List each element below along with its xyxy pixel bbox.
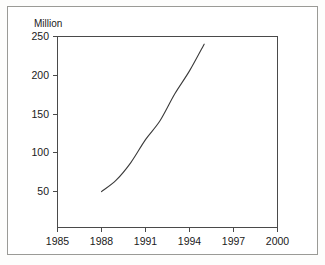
x-tick-label-1997: 1997 xyxy=(222,235,246,247)
x-tick-label-1988: 1988 xyxy=(90,235,114,247)
y-tick-label-150: 150 xyxy=(31,108,49,120)
y-tick-label-200: 200 xyxy=(31,69,49,81)
x-tick-label-1991: 1991 xyxy=(134,235,158,247)
figure-container: Million 250 200 150 100 50 xyxy=(0,0,325,265)
y-axis-tick-labels: 250 200 150 100 50 xyxy=(31,30,49,197)
data-series-line xyxy=(102,44,205,191)
x-tick-label-1994: 1994 xyxy=(178,235,202,247)
y-tick-label-100: 100 xyxy=(31,146,49,158)
y-axis-ticks xyxy=(53,37,58,192)
y-axis-unit-label: Million xyxy=(34,18,62,29)
y-tick-label-50: 50 xyxy=(37,185,49,197)
x-tick-label-2000: 2000 xyxy=(266,235,290,247)
x-axis-tick-labels: 1985 1988 1991 1994 1997 2000 xyxy=(46,235,290,247)
y-tick-label-250: 250 xyxy=(31,30,49,42)
line-chart: Million 250 200 150 100 50 xyxy=(0,0,325,265)
x-axis-ticks xyxy=(58,228,278,233)
x-tick-label-1985: 1985 xyxy=(46,235,70,247)
plot-frame xyxy=(58,37,278,228)
plot-area-rect xyxy=(58,37,278,228)
